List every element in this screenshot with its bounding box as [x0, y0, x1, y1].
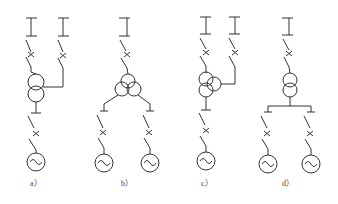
breaker-icon — [203, 50, 209, 55]
panel-a-label: a） — [30, 179, 42, 188]
breaker-icon — [33, 131, 39, 136]
generator-icon — [141, 154, 159, 172]
bus-bar-icon — [200, 17, 211, 34]
bus-bar-icon — [229, 17, 240, 34]
bus-bar-icon — [26, 18, 37, 36]
panel-d: d） — [259, 18, 320, 188]
breaker-icon — [60, 53, 66, 58]
panel-c: c） — [197, 17, 240, 188]
panel-b-label: b） — [121, 179, 133, 188]
disconnector-icon — [26, 40, 31, 52]
panel-d-label: d） — [282, 179, 294, 188]
breaker-icon — [146, 130, 152, 135]
three-winding-transformer-icon — [115, 74, 141, 96]
breaker-icon — [28, 52, 34, 57]
generator-icon — [302, 155, 320, 173]
generator-icon — [27, 153, 45, 171]
generator-icon — [259, 155, 277, 173]
bus-bar-icon — [119, 18, 130, 36]
transformer-icon — [283, 73, 297, 97]
breaker-icon — [286, 51, 292, 56]
generator-icon — [95, 154, 113, 172]
bus-bar-icon — [58, 18, 69, 36]
transformer-icon — [28, 74, 44, 102]
breaker-icon — [264, 131, 270, 136]
breaker-icon — [307, 131, 313, 136]
panel-c-label: c） — [201, 179, 213, 188]
panel-a: a） — [26, 18, 69, 188]
breaker-icon — [124, 52, 130, 57]
generator-icon — [197, 152, 215, 170]
three-winding-transformer-icon — [199, 72, 221, 97]
breaker-icon — [203, 128, 209, 133]
panel-b: b） — [95, 18, 159, 188]
breaker-icon — [232, 50, 238, 55]
bus-bar-icon — [282, 18, 293, 35]
breaker-icon — [100, 130, 106, 135]
single-line-diagrams: a） b） — [0, 0, 338, 204]
